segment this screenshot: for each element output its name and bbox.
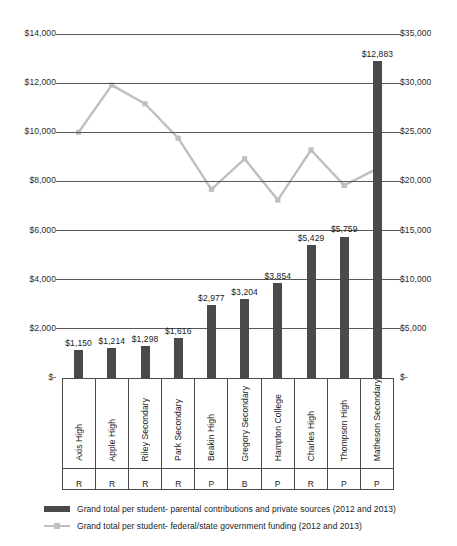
bar — [74, 350, 83, 378]
left-axis-zero-tick: $- — [0, 372, 56, 382]
line-data-point-marker — [275, 198, 280, 203]
left-axis-tick-label: $8,000 — [0, 175, 56, 185]
category-name-cell: Gregory Secondary — [228, 379, 261, 469]
bar-value-label: $5,759 — [314, 224, 374, 234]
category-label: Beakin High — [206, 414, 216, 461]
category-code-row: RRRRPBPRPP — [63, 469, 394, 490]
category-name-cell: Axis High — [63, 379, 96, 469]
category-name-cell: Park Secondary — [162, 379, 195, 469]
chart-legend: Grand total per student- parental contri… — [44, 500, 444, 534]
category-code-cell: B — [228, 469, 261, 490]
category-code-cell: R — [96, 469, 129, 490]
bar — [340, 237, 349, 379]
line-data-point-marker — [242, 156, 247, 161]
category-name-cell: Apple High — [96, 379, 129, 469]
plot-area — [62, 34, 394, 378]
chart-container: $14,000$12,000$10,000$8,000$6,000$4,000$… — [0, 0, 457, 546]
right-axis-tick-label: $20,000 — [400, 175, 456, 185]
category-label: Hampton College — [273, 394, 283, 461]
left-axis-tick-mark — [56, 34, 63, 35]
bar — [307, 245, 316, 378]
line-series-swatch-icon — [44, 522, 70, 529]
left-axis-tick-mark — [56, 83, 63, 84]
category-name-cell: Riley Secondary — [129, 379, 162, 469]
category-name-cell: Charles High — [294, 379, 327, 469]
legend-label-line-series: Grand total per student- federal/state g… — [77, 521, 362, 531]
category-code-cell: R — [162, 469, 195, 490]
line-data-point-marker — [342, 183, 347, 188]
category-code-cell: P — [261, 469, 294, 490]
right-axis-tick-label: $25,000 — [400, 126, 456, 136]
category-axis-table: Axis HighApple HighRiley SecondaryPark S… — [62, 378, 394, 490]
category-code-cell: P — [360, 469, 393, 490]
line-data-point-marker — [176, 136, 181, 141]
right-axis-tick-mark — [394, 132, 401, 133]
left-axis-tick-label: $2,000 — [0, 323, 56, 333]
category-code-cell: R — [294, 469, 327, 490]
category-name-cell: Hampton College — [261, 379, 294, 469]
right-axis-tick-label: $15,000 — [400, 225, 456, 235]
line-data-point-marker — [209, 187, 214, 192]
left-axis-tick-label: $12,000 — [0, 77, 56, 87]
category-name-cell: Beakin High — [195, 379, 228, 469]
right-axis-tick-label: $35,000 — [400, 28, 456, 38]
category-label: Riley Secondary — [140, 398, 150, 461]
category-name-cell: Thompson High — [327, 379, 360, 469]
gridline — [62, 83, 394, 84]
right-axis-tick-mark — [394, 181, 401, 182]
legend-item-line-series: Grand total per student- federal/state g… — [44, 517, 444, 534]
category-code-cell: R — [63, 469, 96, 490]
left-axis-tick-label: $14,000 — [0, 28, 56, 38]
right-axis-zero-tick: $- — [400, 372, 456, 382]
left-axis-tick-mark — [56, 181, 63, 182]
bar-series-swatch-icon — [44, 506, 70, 512]
bar-value-label: $3,204 — [215, 287, 275, 297]
bar — [107, 348, 116, 378]
gridline — [62, 34, 394, 35]
right-axis-tick-label: $10,000 — [400, 274, 456, 284]
category-label: Park Secondary — [173, 399, 183, 461]
left-axis-tick-label: $6,000 — [0, 225, 56, 235]
category-label: Axis High — [74, 424, 84, 461]
category-name-cell: Matheson Secondary — [360, 379, 393, 469]
left-axis-tick-mark — [56, 328, 63, 329]
line-data-point-marker — [308, 147, 313, 152]
bar — [373, 61, 382, 378]
gridline — [62, 132, 394, 133]
right-axis-tick-label: $5,000 — [400, 323, 456, 333]
gridline — [62, 181, 394, 182]
category-code-cell: P — [195, 469, 228, 490]
bar-value-label: $1,616 — [148, 326, 208, 336]
right-axis-tick-mark — [394, 328, 401, 329]
category-label: Gregory Secondary — [240, 386, 250, 461]
category-code-cell: R — [129, 469, 162, 490]
bar — [141, 346, 150, 378]
category-code-cell: P — [327, 469, 360, 490]
right-axis-tick-mark — [394, 230, 401, 231]
right-axis-tick-mark — [394, 34, 401, 35]
bar — [240, 299, 249, 378]
legend-label-bar-series: Grand total per student- parental contri… — [77, 504, 396, 514]
category-label: Matheson Secondary — [372, 379, 382, 461]
left-axis-tick-mark — [56, 279, 63, 280]
category-label: Thompson High — [339, 400, 349, 461]
line-data-point-marker — [142, 101, 147, 106]
bar — [273, 283, 282, 378]
bar — [174, 338, 183, 378]
category-label: Apple High — [107, 419, 117, 462]
left-axis-tick-mark — [56, 132, 63, 133]
legend-item-bar-series: Grand total per student- parental contri… — [44, 500, 444, 517]
left-axis-tick-label: $4,000 — [0, 274, 56, 284]
line-series-path — [79, 85, 378, 200]
bar — [207, 305, 216, 378]
bar-value-label: $3,854 — [248, 271, 308, 281]
bar-value-label: $12,883 — [347, 49, 407, 59]
right-axis-tick-mark — [394, 83, 401, 84]
right-axis-tick-mark — [394, 279, 401, 280]
category-name-row: Axis HighApple HighRiley SecondaryPark S… — [63, 379, 394, 469]
right-axis-tick-label: $30,000 — [400, 77, 456, 87]
category-label: Charles High — [306, 411, 316, 461]
left-axis-tick-mark — [56, 230, 63, 231]
left-axis-tick-label: $10,000 — [0, 126, 56, 136]
